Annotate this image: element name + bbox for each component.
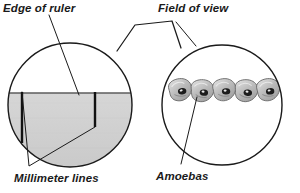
label-edge-of-ruler: Edge of ruler bbox=[3, 2, 75, 15]
label-millimeter-lines: Millimeter lines bbox=[14, 172, 99, 185]
field-of-view-circle bbox=[162, 45, 282, 165]
diagram-artwork bbox=[0, 0, 300, 193]
magnification-cone bbox=[117, 21, 181, 51]
amoeba-group bbox=[168, 77, 281, 102]
ruler-view-circle bbox=[0, 43, 150, 193]
label-field-of-view: Field of view bbox=[158, 2, 228, 15]
figure-canvas: Edge of ruler Field of view Millimeter l… bbox=[0, 0, 300, 193]
label-amoebas: Amoebas bbox=[156, 170, 208, 183]
